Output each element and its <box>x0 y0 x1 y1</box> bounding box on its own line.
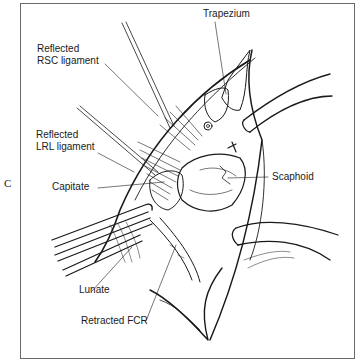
label-trapezium: Trapezium <box>203 8 250 20</box>
fcr-tendon <box>150 218 200 282</box>
label-retracted-fcr: Retracted FCR <box>81 315 148 327</box>
incision-right-edge <box>210 50 262 340</box>
pin-1 <box>204 122 212 130</box>
ligament-fibers <box>138 106 202 200</box>
leader-rsc <box>105 64 158 116</box>
incision-bottom <box>150 268 222 340</box>
right-retractor <box>232 74 338 260</box>
incision-left-edge <box>95 60 250 262</box>
scaphoid-shape <box>178 154 246 211</box>
leader-scaphoid <box>228 177 268 178</box>
label-capitate: Capitate <box>52 181 89 193</box>
label-reflected-rsc: Reflected RSC ligament <box>37 43 99 67</box>
pin-2 <box>228 142 236 152</box>
trapezium-shape <box>222 50 250 110</box>
rsc-retractor-wire <box>122 23 170 128</box>
label-reflected-lrl: Reflected LRL ligament <box>36 129 95 153</box>
left-retractors <box>52 204 152 276</box>
leader-lrl <box>98 153 134 172</box>
label-scaphoid: Scaphoid <box>272 171 314 183</box>
label-lunate: Lunate <box>79 284 110 296</box>
leader-fcr <box>146 245 176 321</box>
